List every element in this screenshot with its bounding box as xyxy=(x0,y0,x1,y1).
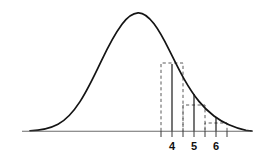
tick-label-4: 4 xyxy=(169,140,176,152)
ordinate-lines-group xyxy=(172,64,216,131)
normal-density-curve xyxy=(30,13,252,131)
axis-tick-marks xyxy=(161,131,227,137)
distribution-figure: 4 5 6 xyxy=(0,0,268,159)
axis-tick-labels: 4 5 6 xyxy=(169,140,219,152)
tick-label-6: 6 xyxy=(213,140,219,152)
tick-label-5: 5 xyxy=(191,140,197,152)
figure-container: 4 5 6 xyxy=(0,0,268,159)
